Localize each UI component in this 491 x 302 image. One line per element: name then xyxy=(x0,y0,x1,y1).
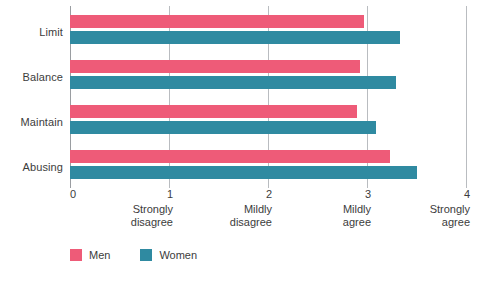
x-tick-4: 4 Strongly agree xyxy=(350,188,470,230)
bar-rows: Limit Balance Maintain Abusing xyxy=(70,6,466,188)
bar-group-limit: Limit xyxy=(70,14,466,49)
legend-item-men: Men xyxy=(70,249,110,261)
legend-label-women: Women xyxy=(159,249,197,261)
bar-men-abusing xyxy=(70,150,390,163)
bar-group-abusing: Abusing xyxy=(70,149,466,184)
bar-women-abusing xyxy=(70,166,417,179)
bar-men-limit xyxy=(70,15,364,28)
legend-swatch-women-icon xyxy=(140,249,152,261)
chart-legend: Men Women xyxy=(70,248,227,262)
bar-group-maintain: Maintain xyxy=(70,104,466,139)
x-tick-4-description: Strongly agree xyxy=(350,203,470,230)
legend-swatch-men-icon xyxy=(70,249,82,261)
bar-women-limit xyxy=(70,31,400,44)
category-label-maintain: Maintain xyxy=(21,116,63,128)
cropped-caption-strip xyxy=(72,292,372,300)
x-tick-4-number: 4 xyxy=(350,188,470,202)
legend-item-women: Women xyxy=(140,249,197,261)
x-axis-labels: 0 1 Strongly disagree 2 Mildly disagree … xyxy=(70,188,466,244)
legend-label-men: Men xyxy=(89,249,110,261)
bar-men-balance xyxy=(70,60,360,73)
horizontal-bar-chart: Limit Balance Maintain Abusing xyxy=(0,0,491,302)
plot-area: Limit Balance Maintain Abusing xyxy=(70,6,466,188)
bar-men-maintain xyxy=(70,105,357,118)
category-label-balance: Balance xyxy=(23,71,63,83)
category-label-abusing: Abusing xyxy=(23,161,63,173)
gridline-4 xyxy=(466,6,467,188)
bar-women-maintain xyxy=(70,121,376,134)
category-label-limit: Limit xyxy=(39,26,63,38)
bar-women-balance xyxy=(70,76,396,89)
bar-group-balance: Balance xyxy=(70,59,466,94)
